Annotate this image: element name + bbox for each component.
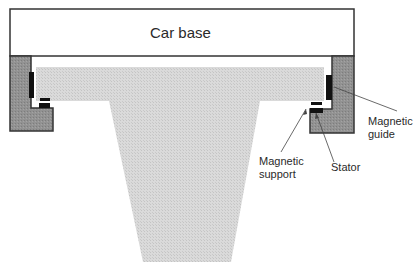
car-base: Car base xyxy=(10,9,354,56)
left-magnetic-support xyxy=(39,98,50,108)
car-base-label: Car base xyxy=(150,24,211,41)
magnetic-support-leader xyxy=(281,109,306,152)
magnetic-support-label-2: support xyxy=(259,168,296,180)
magnetic-guide-label-2: guide xyxy=(368,128,395,140)
maglev-cross-section-diagram: Car base Magnetic guide Magnetic support… xyxy=(0,0,415,267)
right-magnetic-guide xyxy=(326,75,332,100)
left-magnetic-guide xyxy=(29,72,34,98)
right-magnetic-support xyxy=(311,102,322,105)
magnetic-support-label-1: Magnetic xyxy=(259,155,304,167)
right-stator xyxy=(310,108,323,113)
stator-label: Stator xyxy=(331,161,361,173)
magnetic-guide-label-1: Magnetic xyxy=(368,115,413,127)
